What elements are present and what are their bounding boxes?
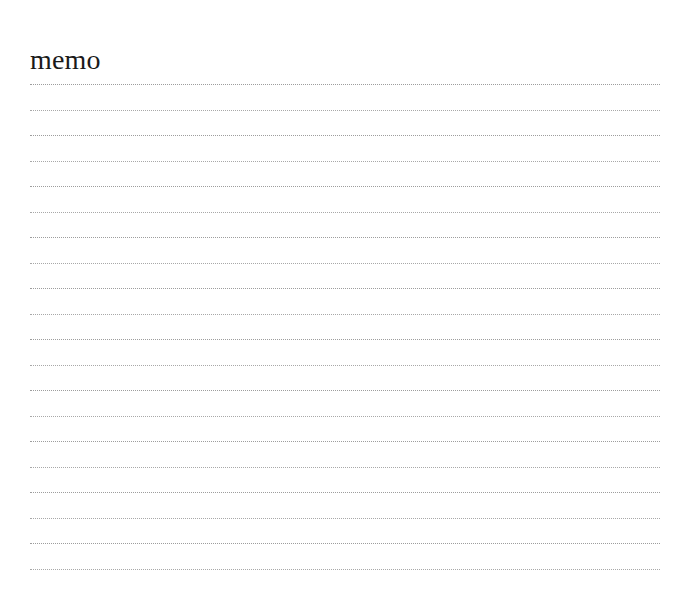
memo-page: memo [0, 0, 686, 589]
page-title: memo [30, 45, 101, 75]
rule-line[interactable] [30, 212, 660, 238]
rule-line[interactable] [30, 263, 660, 289]
rule-line[interactable] [30, 492, 660, 518]
rule-line[interactable] [30, 543, 660, 569]
rule-line[interactable] [30, 365, 660, 391]
rule-line[interactable] [30, 441, 660, 467]
rule-line[interactable] [30, 390, 660, 416]
rule-line[interactable] [30, 161, 660, 187]
rule-line[interactable] [30, 288, 660, 314]
rule-line[interactable] [30, 518, 660, 544]
rule-line[interactable] [30, 186, 660, 212]
rule-line[interactable] [30, 416, 660, 442]
rule-line[interactable] [30, 314, 660, 340]
rule-line[interactable] [30, 110, 660, 136]
rule-line[interactable] [30, 84, 660, 110]
rule-line[interactable] [30, 339, 660, 365]
ruled-writing-area[interactable] [30, 84, 660, 564]
rule-line[interactable] [30, 467, 660, 493]
rule-line[interactable] [30, 237, 660, 263]
rule-line[interactable] [30, 135, 660, 161]
rule-line[interactable] [30, 569, 660, 589]
